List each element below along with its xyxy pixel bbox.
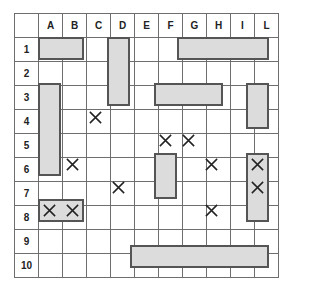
grid-cell-A7[interactable] xyxy=(39,182,63,206)
grid-cell-I8[interactable] xyxy=(231,206,255,230)
grid-cell-D1[interactable] xyxy=(111,38,135,62)
grid-cell-B5[interactable] xyxy=(63,134,87,158)
grid-cell-C6[interactable] xyxy=(87,158,111,182)
grid-cell-C9[interactable] xyxy=(87,230,111,254)
grid-cell-E5[interactable] xyxy=(135,134,159,158)
grid-cell-I6[interactable] xyxy=(231,158,255,182)
grid-cell-E2[interactable] xyxy=(135,62,159,86)
grid-cell-H10[interactable] xyxy=(207,254,231,278)
grid-cell-I2[interactable] xyxy=(231,62,255,86)
grid-cell-F7[interactable] xyxy=(159,182,183,206)
grid-cell-L9[interactable] xyxy=(255,230,279,254)
grid-cell-L8[interactable] xyxy=(255,206,279,230)
grid-cell-A10[interactable] xyxy=(39,254,63,278)
grid-cell-H7[interactable] xyxy=(207,182,231,206)
grid-cell-C4[interactable] xyxy=(87,110,111,134)
grid-cell-C5[interactable] xyxy=(87,134,111,158)
grid-cell-L1[interactable] xyxy=(255,38,279,62)
grid-cell-H9[interactable] xyxy=(207,230,231,254)
grid-cell-A1[interactable] xyxy=(39,38,63,62)
grid-cell-I7[interactable] xyxy=(231,182,255,206)
grid-cell-B1[interactable] xyxy=(63,38,87,62)
grid-cell-C3[interactable] xyxy=(87,86,111,110)
grid-cell-B4[interactable] xyxy=(63,110,87,134)
grid-cell-C8[interactable] xyxy=(87,206,111,230)
grid-cell-L4[interactable] xyxy=(255,110,279,134)
grid-cell-E3[interactable] xyxy=(135,86,159,110)
grid-cell-B8[interactable] xyxy=(63,206,87,230)
grid-cell-A5[interactable] xyxy=(39,134,63,158)
grid-cell-G10[interactable] xyxy=(183,254,207,278)
grid-cell-F4[interactable] xyxy=(159,110,183,134)
grid-cell-B7[interactable] xyxy=(63,182,87,206)
grid-cell-D5[interactable] xyxy=(111,134,135,158)
grid-cell-D3[interactable] xyxy=(111,86,135,110)
grid-cell-D7[interactable] xyxy=(111,182,135,206)
grid-cell-L5[interactable] xyxy=(255,134,279,158)
grid-cell-F2[interactable] xyxy=(159,62,183,86)
grid-cell-I1[interactable] xyxy=(231,38,255,62)
grid-cell-H8[interactable] xyxy=(207,206,231,230)
grid-cell-G9[interactable] xyxy=(183,230,207,254)
grid-cell-I4[interactable] xyxy=(231,110,255,134)
grid-cell-L2[interactable] xyxy=(255,62,279,86)
grid-cell-E10[interactable] xyxy=(135,254,159,278)
grid-cell-A6[interactable] xyxy=(39,158,63,182)
grid-cell-H4[interactable] xyxy=(207,110,231,134)
grid-cell-A9[interactable] xyxy=(39,230,63,254)
grid-cell-F5[interactable] xyxy=(159,134,183,158)
grid-cell-D4[interactable] xyxy=(111,110,135,134)
grid-cell-F1[interactable] xyxy=(159,38,183,62)
grid-cell-B2[interactable] xyxy=(63,62,87,86)
grid-cell-C7[interactable] xyxy=(87,182,111,206)
grid-cell-H5[interactable] xyxy=(207,134,231,158)
grid-cell-G3[interactable] xyxy=(183,86,207,110)
grid-cell-A8[interactable] xyxy=(39,206,63,230)
grid-cell-B10[interactable] xyxy=(63,254,87,278)
grid-cell-E1[interactable] xyxy=(135,38,159,62)
grid-cell-D2[interactable] xyxy=(111,62,135,86)
grid-cell-F8[interactable] xyxy=(159,206,183,230)
grid-cell-I5[interactable] xyxy=(231,134,255,158)
grid-cell-L7[interactable] xyxy=(255,182,279,206)
grid-cell-G2[interactable] xyxy=(183,62,207,86)
grid-cell-F10[interactable] xyxy=(159,254,183,278)
grid-cell-L3[interactable] xyxy=(255,86,279,110)
grid-cell-G5[interactable] xyxy=(183,134,207,158)
grid-cell-E7[interactable] xyxy=(135,182,159,206)
grid-cell-D10[interactable] xyxy=(111,254,135,278)
grid-cell-H3[interactable] xyxy=(207,86,231,110)
grid-cell-E4[interactable] xyxy=(135,110,159,134)
grid-cell-F3[interactable] xyxy=(159,86,183,110)
grid-cell-B3[interactable] xyxy=(63,86,87,110)
grid-cell-H1[interactable] xyxy=(207,38,231,62)
grid-cell-L10[interactable] xyxy=(255,254,279,278)
grid-cell-E6[interactable] xyxy=(135,158,159,182)
grid-cell-B9[interactable] xyxy=(63,230,87,254)
grid-cell-F6[interactable] xyxy=(159,158,183,182)
grid-cell-F9[interactable] xyxy=(159,230,183,254)
grid-cell-I10[interactable] xyxy=(231,254,255,278)
grid-cell-G6[interactable] xyxy=(183,158,207,182)
grid-cell-H6[interactable] xyxy=(207,158,231,182)
grid-cell-L6[interactable] xyxy=(255,158,279,182)
grid-cell-I9[interactable] xyxy=(231,230,255,254)
grid-cell-C10[interactable] xyxy=(87,254,111,278)
grid-cell-G7[interactable] xyxy=(183,182,207,206)
grid-cell-G8[interactable] xyxy=(183,206,207,230)
grid-cell-G4[interactable] xyxy=(183,110,207,134)
grid-cell-B6[interactable] xyxy=(63,158,87,182)
grid-cell-A2[interactable] xyxy=(39,62,63,86)
grid-cell-A4[interactable] xyxy=(39,110,63,134)
grid-cell-C2[interactable] xyxy=(87,62,111,86)
grid-cell-D9[interactable] xyxy=(111,230,135,254)
grid-cell-H2[interactable] xyxy=(207,62,231,86)
grid-cell-D8[interactable] xyxy=(111,206,135,230)
grid-cell-I3[interactable] xyxy=(231,86,255,110)
grid-cell-E8[interactable] xyxy=(135,206,159,230)
grid-cell-E9[interactable] xyxy=(135,230,159,254)
grid-cell-C1[interactable] xyxy=(87,38,111,62)
grid-cell-G1[interactable] xyxy=(183,38,207,62)
grid-cell-D6[interactable] xyxy=(111,158,135,182)
grid-cell-A3[interactable] xyxy=(39,86,63,110)
